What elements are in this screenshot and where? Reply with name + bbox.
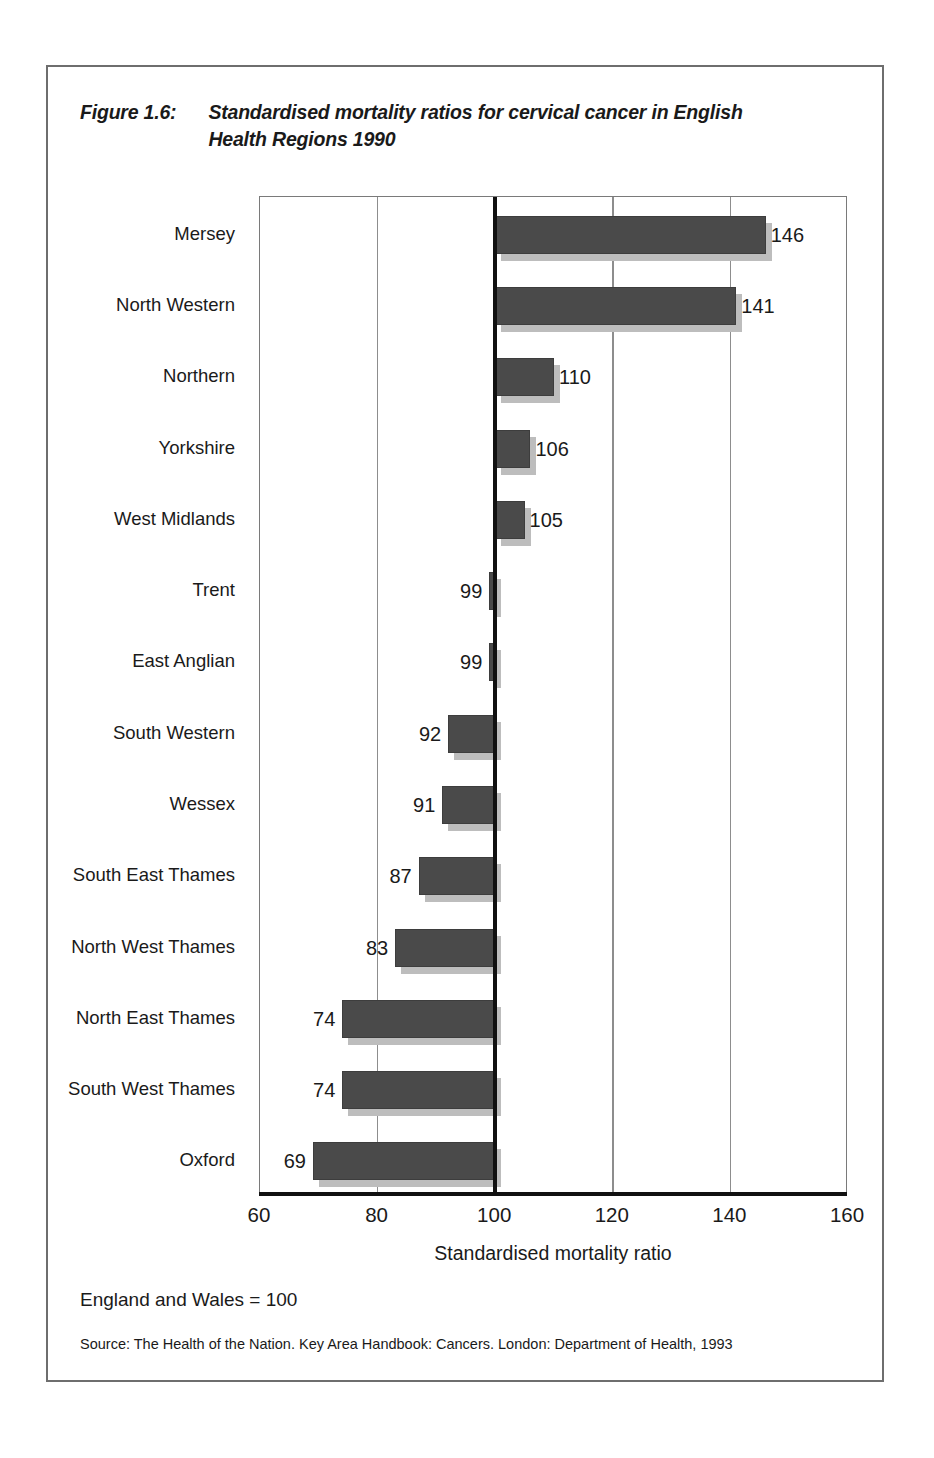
category-axis-labels: MerseyNorth WesternNorthernYorkshireWest…: [48, 196, 247, 1194]
category-label-south-east-thames: South East Thames: [35, 865, 247, 885]
bar-row[interactable]: [260, 216, 846, 254]
bar-mersey[interactable]: [495, 216, 765, 254]
bar-north-western[interactable]: [495, 287, 736, 325]
bar-north-east-thames[interactable]: [342, 1000, 495, 1038]
x-tick-label-160: 160: [830, 1203, 864, 1227]
category-label-north-western: North Western: [35, 295, 247, 315]
category-label-east-anglian: East Anglian: [35, 651, 247, 671]
value-label: 110: [559, 366, 591, 388]
bar-row[interactable]: [260, 572, 846, 610]
figure-title: Figure 1.6: Standardised mortality ratio…: [80, 99, 850, 153]
category-label-north-west-thames: North West Thames: [35, 937, 247, 957]
category-label-north-east-thames: North East Thames: [35, 1008, 247, 1028]
value-label: 83: [343, 937, 388, 959]
value-label: 74: [290, 1008, 335, 1030]
value-label: 74: [290, 1079, 335, 1101]
category-label-oxford: Oxford: [35, 1150, 247, 1170]
figure-frame: Figure 1.6: Standardised mortality ratio…: [46, 65, 884, 1382]
value-label: 99: [437, 580, 482, 602]
value-label: 106: [535, 438, 568, 460]
bar-row[interactable]: [260, 1071, 846, 1109]
bar-yorkshire[interactable]: [495, 430, 530, 468]
category-label-mersey: Mersey: [35, 224, 247, 244]
bar-row[interactable]: [260, 715, 846, 753]
value-label: 105: [530, 509, 563, 531]
value-label: 146: [771, 224, 804, 246]
bar-row[interactable]: [260, 1000, 846, 1038]
category-label-south-western: South Western: [35, 723, 247, 743]
category-label-wessex: Wessex: [35, 794, 247, 814]
bar-northern[interactable]: [495, 358, 554, 396]
bar-south-east-thames[interactable]: [419, 857, 495, 895]
bar-row[interactable]: [260, 358, 846, 396]
gridline-120: [612, 197, 614, 1193]
figure-title-text: Standardised mortality ratios for cervic…: [208, 99, 768, 153]
plot-area: 146141110106105999992918783747469: [259, 196, 847, 1194]
x-axis-title: Standardised mortality ratio: [259, 1242, 847, 1265]
category-label-south-west-thames: South West Thames: [35, 1079, 247, 1099]
category-label-trent: Trent: [35, 580, 247, 600]
x-axis-rule: [259, 1192, 847, 1196]
x-tick-label-60: 60: [248, 1203, 271, 1227]
x-tick-label-100: 100: [477, 1203, 511, 1227]
value-label: 99: [437, 651, 482, 673]
figure-number: Figure 1.6:: [80, 99, 176, 126]
bar-row[interactable]: [260, 857, 846, 895]
bar-oxford[interactable]: [313, 1142, 495, 1180]
value-label: 69: [261, 1150, 306, 1172]
chart-footnote: England and Wales = 100: [80, 1289, 297, 1311]
category-label-west-midlands: West Midlands: [35, 509, 247, 529]
gridline-140: [730, 197, 732, 1193]
bar-south-west-thames[interactable]: [342, 1071, 495, 1109]
category-label-northern: Northern: [35, 366, 247, 386]
value-label: 87: [367, 865, 412, 887]
bar-south-western[interactable]: [448, 715, 495, 753]
x-tick-label-120: 120: [595, 1203, 629, 1227]
reference-line-100: [493, 197, 497, 1193]
value-label: 91: [390, 794, 435, 816]
bar-wessex[interactable]: [442, 786, 495, 824]
category-label-yorkshire: Yorkshire: [35, 438, 247, 458]
value-label: 141: [741, 295, 774, 317]
x-tick-label-80: 80: [365, 1203, 388, 1227]
bar-row[interactable]: [260, 786, 846, 824]
bar-north-west-thames[interactable]: [395, 929, 495, 967]
x-tick-label-140: 140: [712, 1203, 746, 1227]
bar-row[interactable]: [260, 1142, 846, 1180]
value-label: 92: [396, 723, 441, 745]
chart-source-note: Source: The Health of the Nation. Key Ar…: [80, 1335, 733, 1353]
x-axis-ticks: 6080100120140160: [259, 1203, 847, 1231]
plot-inner: 146141110106105999992918783747469: [260, 197, 846, 1193]
bar-row[interactable]: [260, 643, 846, 681]
bar-west-midlands[interactable]: [495, 501, 524, 539]
